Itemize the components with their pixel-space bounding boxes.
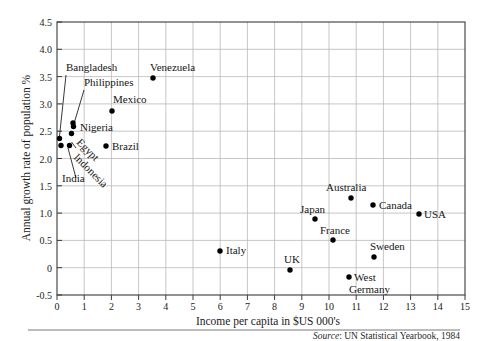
y-tick-label: 2.5 [40, 126, 53, 137]
x-tick-label: 11 [351, 301, 361, 312]
x-tick-label: 13 [406, 301, 416, 312]
data-point-usa [416, 211, 421, 216]
data-point-egypt [69, 131, 74, 136]
x-tick-label: 3 [136, 301, 141, 312]
chart-canvas: 4.5 4.0 3.5 3.0 2.5 2.0 1.5 1.0 0.5 0 -0… [0, 0, 488, 341]
data-point-mexico [109, 108, 114, 113]
x-tick-label: 12 [378, 301, 388, 312]
point-label-italy: Italy [226, 244, 247, 256]
data-point-uk [287, 267, 292, 272]
y-tick-label: 4.5 [40, 17, 53, 28]
x-tick-labels: 0 1 2 3 4 5 6 7 8 9 10 11 12 13 14 15 [55, 301, 471, 312]
point-label-west-germany: West Germany [349, 271, 390, 295]
x-tick-label: 9 [299, 301, 304, 312]
x-tick-label: 15 [460, 301, 470, 312]
y-tick-label: -0.5 [36, 290, 52, 301]
x-tick-label: 14 [433, 301, 443, 312]
data-point-italy [217, 248, 222, 253]
point-label-uk: UK [284, 253, 300, 265]
source-note: Source: UN Statistical Yearbook, 1984 [313, 331, 460, 341]
data-point-bangladesh [57, 136, 62, 141]
scatter-plot-figure: 4.5 4.0 3.5 3.0 2.5 2.0 1.5 1.0 0.5 0 -0… [0, 0, 488, 341]
point-label-india: India [62, 172, 85, 184]
y-tick-label: 3.0 [40, 99, 53, 110]
source-text: : UN Statistical Yearbook, 1984 [339, 331, 460, 341]
point-label-bangladesh: Bangladesh [66, 61, 118, 73]
y-tick-label: 1.5 [40, 181, 53, 192]
x-tick-label: 6 [218, 301, 223, 312]
x-tick-label: 0 [55, 301, 60, 312]
point-label-brazil: Brazil [112, 140, 139, 152]
x-tick-label: 5 [191, 301, 196, 312]
x-tickmarks [57, 295, 465, 300]
data-point-australia [348, 195, 353, 200]
point-label-usa: USA [424, 208, 446, 220]
x-tick-label: 2 [109, 301, 114, 312]
data-point-brazil [103, 143, 108, 148]
data-point-india [58, 143, 63, 148]
data-point-canada [370, 202, 375, 207]
data-point-france [330, 237, 335, 242]
y-tick-label: 2.0 [40, 154, 53, 165]
x-tick-label: 1 [82, 301, 87, 312]
point-label-philippines: Philippines [84, 76, 134, 88]
y-tick-label: 3.5 [40, 72, 53, 83]
y-tick-label: 4.0 [40, 44, 53, 55]
x-axis-title: Income per capita in $US 000's [196, 315, 341, 328]
point-label-venezuela: Venezuela [150, 61, 195, 73]
point-label-sweden: Sweden [370, 240, 405, 252]
x-tick-label: 8 [272, 301, 277, 312]
point-label-france: France [320, 224, 350, 236]
data-point-venezuela [150, 75, 155, 80]
data-point-sweden [371, 254, 376, 259]
y-tickmarks [57, 22, 62, 295]
leader-line-bangladesh [60, 75, 67, 136]
data-point-west-germany [346, 274, 351, 279]
point-label-canada: Canada [379, 199, 412, 211]
y-tick-label: 0 [47, 263, 52, 274]
point-label-australia: Australia [326, 181, 366, 193]
x-tick-label: 4 [163, 301, 168, 312]
point-labels: Bangladesh Philippines Mexico Nigeria Br… [62, 61, 446, 295]
data-point-philippines [70, 120, 75, 125]
data-point-japan [312, 216, 317, 221]
x-tick-label: 7 [245, 301, 250, 312]
point-label-japan: Japan [300, 203, 326, 215]
x-tick-label: 10 [324, 301, 334, 312]
point-label-nigeria: Nigeria [80, 121, 113, 133]
y-tick-labels: 4.5 4.0 3.5 3.0 2.5 2.0 1.5 1.0 0.5 0 -0… [36, 17, 52, 301]
source-prefix: Source [313, 331, 339, 341]
point-label-mexico: Mexico [113, 93, 147, 105]
y-axis-title: Annual growth rate of population % [20, 74, 33, 241]
data-point-indonesia [67, 143, 72, 148]
y-tick-label: 0.5 [40, 235, 53, 246]
y-tick-label: 1.0 [40, 208, 53, 219]
